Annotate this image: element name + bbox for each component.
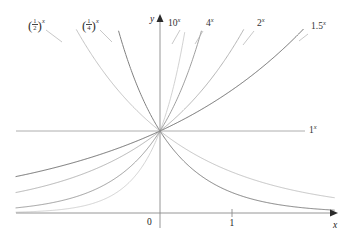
curve-label-two-power-x: 2x	[257, 17, 265, 29]
exponent: x	[96, 17, 99, 24]
fraction-one-quarter: 14	[86, 18, 91, 33]
fraction-denominator: 2	[32, 25, 37, 32]
exponent: x	[323, 19, 326, 26]
base: 1.5	[311, 21, 323, 31]
curve-label-one-quarter-power-x: (14)x	[82, 18, 99, 33]
leader-one-half	[46, 30, 62, 42]
exponent: x	[42, 17, 45, 24]
exponent: x	[211, 16, 214, 23]
leader-ten	[172, 30, 180, 44]
exponent: x	[314, 123, 317, 130]
leader-two	[243, 31, 254, 45]
base: 10	[168, 18, 178, 28]
curve-label-one-half-power-x: (12)x	[28, 18, 45, 33]
curve-label-one-point-five-power-x: 1.5x	[311, 20, 326, 32]
exponent: x	[178, 16, 181, 23]
leader-one-five	[299, 34, 308, 41]
leader-one-fourth	[100, 30, 112, 42]
exponent: x	[262, 16, 265, 23]
curve-10-x	[16, 33, 185, 213]
x-axis-label: x	[333, 221, 337, 231]
axes-group	[16, 14, 338, 228]
fraction-denominator: 4	[86, 25, 91, 32]
curve--1-2--x	[76, 30, 334, 198]
curve-2-x	[16, 30, 244, 193]
y-axis-arrowhead	[157, 14, 164, 22]
y-axis-label: y	[150, 15, 154, 25]
curve-label-one-power-x: 1x	[309, 124, 317, 136]
curve-label-ten-power-x: 10x	[168, 17, 180, 29]
curves-group	[16, 29, 334, 212]
graph-canvas	[0, 0, 351, 245]
leader-four	[195, 31, 203, 44]
origin-label: 0	[147, 218, 152, 228]
exponential-functions-figure: (12)x (14)x 10x 4x 2x 1.5x 1x y x 0 1	[0, 0, 351, 245]
fraction-one-half: 12	[32, 18, 37, 33]
curve-label-four-power-x: 4x	[206, 17, 214, 29]
x-tick-label-1: 1	[230, 219, 235, 229]
